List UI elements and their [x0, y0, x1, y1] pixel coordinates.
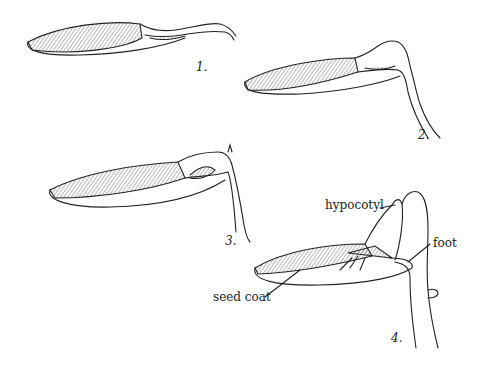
stage-1-seed — [28, 23, 236, 55]
stage-number-4: 4. — [391, 331, 402, 345]
stage-2-seed — [245, 41, 440, 138]
stage-number-3: 3. — [225, 234, 236, 248]
germination-illustration — [0, 0, 483, 370]
stage-number-1: 1. — [196, 60, 207, 74]
stage-3-seed — [50, 145, 250, 242]
label-seed-coat: seed coat — [213, 290, 271, 304]
label-hypocotyl: hypocotyl — [325, 198, 384, 212]
foot-leader — [408, 244, 430, 262]
stage-4-seed — [255, 192, 438, 349]
stage-number-2: 2. — [418, 128, 429, 142]
label-foot: foot — [433, 236, 457, 250]
